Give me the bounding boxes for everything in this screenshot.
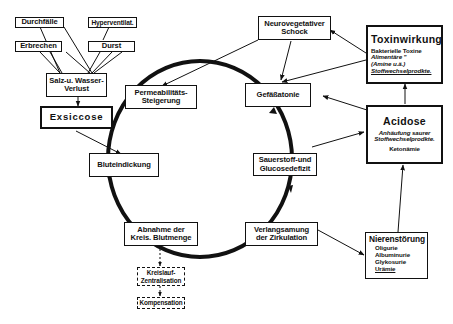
- node-acidose: Acidose Anhäufung saurer Stoffwechselpro…: [366, 105, 443, 164]
- node-abnahme-blutmenge: Abnahme der Kreis. Blutmenge: [124, 222, 198, 246]
- node-sauerstoff-glucosedefizit: Sauerstoff-und Glucosedefizit: [253, 153, 317, 176]
- node-detail: Stoffwechselprodkte.: [374, 136, 434, 143]
- node-exsiccose: Exsiccose: [40, 106, 113, 129]
- node-erbrechen: Erbrechen: [15, 41, 62, 52]
- node-kompensation: Kompensation: [137, 297, 185, 309]
- node-label: Exsiccose: [50, 112, 104, 122]
- node-hyperventilation: Hyperventilat.: [88, 17, 137, 28]
- node-label: Bluteindickung: [97, 161, 150, 169]
- node-kreislauf-zentralisation: Kreislauf- Zentralisation: [137, 267, 185, 286]
- node-label: Steigerung: [142, 97, 181, 105]
- node-label: Schock: [281, 28, 307, 36]
- node-label: Zentralisation: [141, 277, 182, 284]
- node-label: Durchfälle: [21, 18, 57, 26]
- node-toxinwirkung: Toxinwirkung Bakterielle Toxine Alimentä…: [366, 25, 443, 84]
- node-label: Kreis. Blutmenge: [131, 234, 192, 242]
- node-label: Gefäßatonie: [257, 91, 300, 99]
- node-title: Acidose: [383, 116, 426, 128]
- node-verlangsamung-zirkulation: Verlangsamung der Zirkulation: [245, 222, 318, 246]
- node-permeabilitaet: Permeabilitäts- Steigerung: [125, 85, 197, 109]
- node-detail: Ketonämie: [389, 146, 420, 153]
- node-nierenstoerung: Nierenstörung Oligurie Albuminurie Glyko…: [365, 232, 428, 279]
- node-label: Durst: [102, 42, 121, 50]
- node-detail: Stoffwechselprodkte.: [371, 68, 431, 75]
- node-label: Verlust: [64, 85, 89, 93]
- node-label: Hyperventilat.: [91, 19, 133, 26]
- node-label: Kompensation: [139, 299, 182, 306]
- node-salz-wasser-verlust: Salz-u. Wasser- Verlust: [46, 73, 107, 97]
- node-gefaessatonie: Gefäßatonie: [245, 83, 311, 107]
- node-neurovegetativer-schock: Neurovegetativer Schock: [258, 16, 331, 40]
- node-title: Nierenstörung: [369, 235, 425, 244]
- node-durchfaelle: Durchfälle: [15, 17, 64, 28]
- node-title: Toxinwirkung: [371, 34, 442, 46]
- node-label: der Zirkulation: [256, 234, 307, 242]
- node-detail: Urämie: [369, 266, 395, 273]
- node-durst: Durst: [88, 41, 135, 52]
- node-label: Kreislauf-: [147, 269, 175, 276]
- node-bluteindickung: Bluteindickung: [89, 153, 159, 177]
- node-label: Glucosedefizit: [260, 165, 311, 173]
- node-label: Erbrechen: [20, 42, 57, 50]
